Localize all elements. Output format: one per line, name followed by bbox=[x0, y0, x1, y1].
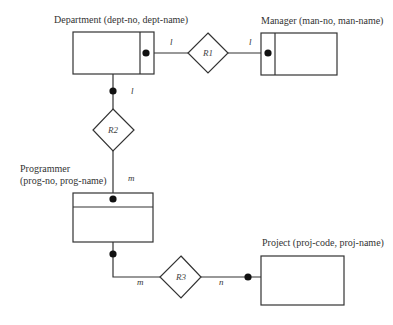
r2-label: R2 bbox=[108, 125, 118, 135]
manager-label: Manager (man-no, man-name) bbox=[261, 15, 383, 27]
project-r3-participation-dot bbox=[244, 273, 251, 280]
department-label: Department (dept-no, dept-name) bbox=[54, 14, 188, 26]
programmer-label-line2: (prog-no, prog-name) bbox=[20, 175, 107, 187]
dept-r1-participation-dot bbox=[142, 49, 149, 56]
programmer-label-line1: Programmer bbox=[20, 163, 70, 175]
r1-manager-cardinality: l bbox=[249, 37, 252, 47]
r1-label: R1 bbox=[203, 48, 213, 58]
programmer-r2-participation-dot bbox=[109, 195, 116, 202]
programmer-r3-participation-dot bbox=[109, 250, 116, 257]
r3-project-cardinality: n bbox=[219, 277, 224, 287]
department-entity-box bbox=[73, 32, 154, 74]
r2-dept-cardinality: l bbox=[131, 86, 134, 96]
r2-programmer-cardinality: m bbox=[128, 173, 135, 183]
dept-r2-participation-dot bbox=[109, 87, 116, 94]
project-label: Project (proj-code, proj-name) bbox=[262, 237, 384, 249]
manager-r1-participation-dot bbox=[264, 49, 271, 56]
r3-programmer-cardinality: m bbox=[137, 277, 144, 287]
r1-dept-cardinality: l bbox=[170, 37, 173, 47]
r3-label: R3 bbox=[176, 272, 186, 282]
programmer-r3-link bbox=[113, 242, 160, 277]
manager-entity-box bbox=[261, 33, 337, 75]
project-entity-box bbox=[261, 256, 344, 305]
